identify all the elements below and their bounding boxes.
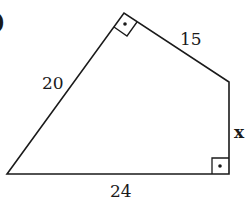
side-label-left: 20 bbox=[42, 73, 64, 93]
right-angle-dot-bottom-right bbox=[218, 164, 222, 168]
side-label-bottom: 24 bbox=[110, 181, 132, 201]
partial-label: ) bbox=[0, 7, 5, 36]
right-angle-dot-top bbox=[123, 22, 127, 26]
side-label-top-right: 15 bbox=[180, 29, 202, 49]
quadrilateral-diagram: ) 20 15 x 24 bbox=[0, 0, 251, 204]
side-label-right: x bbox=[234, 122, 245, 142]
